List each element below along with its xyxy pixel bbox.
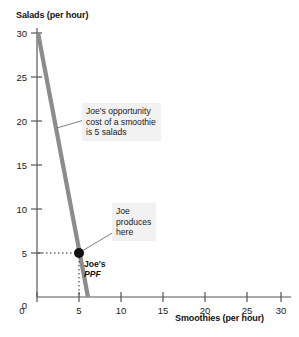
annotation-produces-here: Joe produces here: [112, 203, 156, 241]
leader-line-produces-here: [82, 232, 114, 251]
ppf-chart: Salads (per hour) Smoothies (per hour): [0, 0, 299, 337]
x-tick-label-15: 15: [153, 305, 173, 316]
x-tick-label-0: 0: [12, 305, 32, 316]
x-tick-label-5: 5: [69, 305, 89, 316]
annotation-opportunity-cost: Joe's opportunity cost of a smoothie is …: [82, 103, 161, 141]
ppf-curve-label: Joe's PPF: [84, 259, 106, 279]
x-tick-label-10: 10: [111, 305, 131, 316]
y-tick-label-10: 10: [7, 204, 27, 215]
y-tick-label-20: 20: [7, 116, 27, 127]
y-tick-label-5: 5: [7, 248, 27, 259]
plot-area: [0, 0, 299, 337]
y-tick-label-30: 30: [7, 28, 27, 39]
y-tick-label-15: 15: [7, 160, 27, 171]
x-tick-label-20: 20: [195, 305, 215, 316]
x-tick-label-25: 25: [237, 305, 257, 316]
y-tick-label-25: 25: [7, 72, 27, 83]
production-point: [74, 248, 84, 258]
ppf-label-line1: Joe's: [84, 259, 106, 269]
x-tick-label-30: 30: [271, 305, 291, 316]
leader-line-opportunity-cost: [57, 120, 84, 128]
ppf-label-line2: PPF: [84, 269, 106, 279]
